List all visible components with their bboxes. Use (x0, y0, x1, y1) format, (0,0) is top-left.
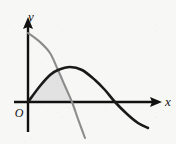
x-axis-label: x (164, 94, 171, 109)
origin-label: O (15, 106, 24, 120)
y-axis-label: y (26, 9, 34, 24)
plot-canvas: y x O (0, 0, 176, 144)
figure-container: y x O (0, 0, 176, 144)
